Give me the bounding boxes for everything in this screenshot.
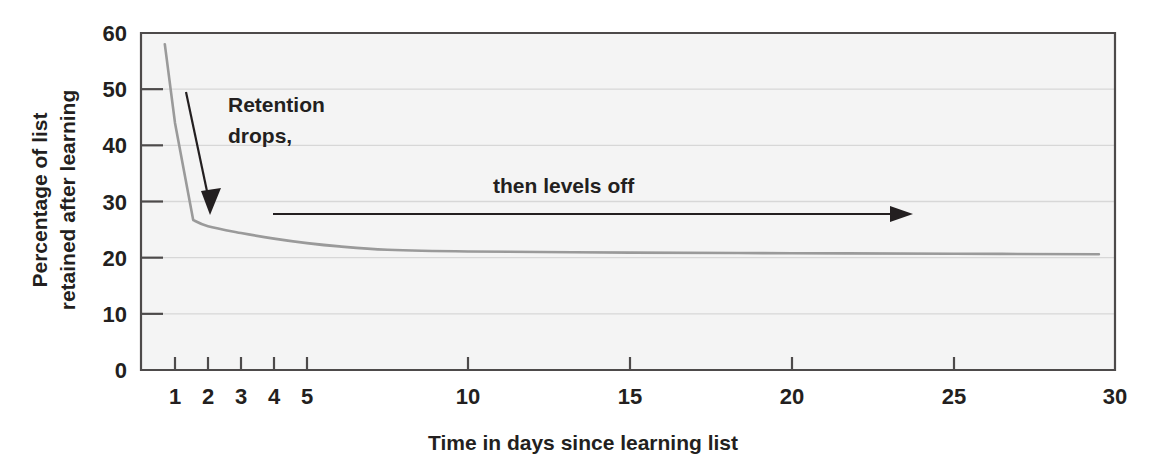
levels-off-label: then levels off [493, 174, 635, 197]
x-tick-label-5: 5 [301, 384, 313, 409]
x-tick-label-1: 1 [169, 384, 181, 409]
chart-canvas: 0102030405060 123451015202530 Retention … [0, 0, 1166, 474]
y-tick-label-50: 50 [103, 77, 127, 102]
forgetting-curve-figure: 0102030405060 123451015202530 Retention … [0, 0, 1166, 474]
y-tick-label-10: 10 [103, 302, 127, 327]
x-axis-tick-labels: 123451015202530 [169, 384, 1127, 409]
x-tick-label-25: 25 [942, 384, 966, 409]
y-axis-tick-labels: 0102030405060 [103, 21, 127, 383]
y-tick-label-60: 60 [103, 21, 127, 46]
y-tick-label-20: 20 [103, 246, 127, 271]
x-tick-label-4: 4 [268, 384, 281, 409]
retention-drops-label-line2: drops, [228, 124, 292, 147]
x-axis-title: Time in days since learning list [428, 431, 738, 454]
y-tick-label-0: 0 [115, 358, 127, 383]
x-tick-label-15: 15 [618, 384, 642, 409]
x-tick-label-2: 2 [202, 384, 214, 409]
y-tick-label-30: 30 [103, 190, 127, 215]
x-tick-label-3: 3 [235, 384, 247, 409]
x-tick-label-10: 10 [456, 384, 480, 409]
y-axis-title-line2: retained after learning [56, 90, 79, 311]
retention-drops-label-line1: Retention [228, 93, 325, 116]
y-axis-title-line1: Percentage of list [28, 112, 51, 287]
x-tick-label-30: 30 [1103, 384, 1127, 409]
x-tick-label-20: 20 [780, 384, 804, 409]
y-tick-label-40: 40 [103, 133, 127, 158]
